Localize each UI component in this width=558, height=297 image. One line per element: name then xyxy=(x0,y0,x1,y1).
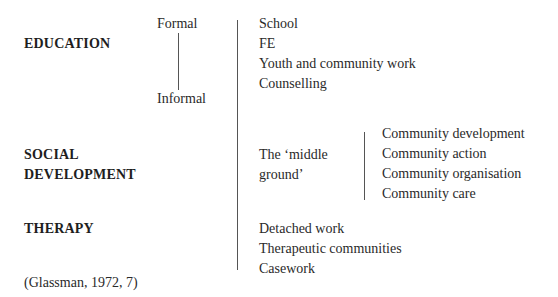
list-item: Community organisation xyxy=(382,164,525,184)
education-items-list: School FE Youth and community work Couns… xyxy=(259,14,416,94)
list-item: School xyxy=(259,14,416,34)
therapy-items-list: Detached work Therapeutic communities Ca… xyxy=(259,219,402,279)
middle-ground-label: The ‘middle ground’ xyxy=(259,145,328,185)
category-social-development-line1: SOCIAL xyxy=(24,145,79,165)
list-item: Therapeutic communities xyxy=(259,239,402,259)
list-item: Community development xyxy=(382,124,525,144)
category-social-development-line2: DEVELOPMENT xyxy=(24,165,136,185)
middle-ground-line2: ground’ xyxy=(259,165,328,185)
scale-formal-label: Formal xyxy=(157,14,197,34)
category-education: EDUCATION xyxy=(24,34,110,54)
list-item: Community action xyxy=(382,144,525,164)
main-divider xyxy=(237,20,238,270)
citation: (Glassman, 1972, 7) xyxy=(24,273,138,293)
list-item: FE xyxy=(259,34,416,54)
formal-informal-connector xyxy=(178,33,179,90)
community-items-list: Community development Community action C… xyxy=(382,124,525,204)
list-item: Youth and community work xyxy=(259,54,416,74)
category-therapy: THERAPY xyxy=(24,219,94,239)
middle-ground-divider xyxy=(364,132,365,200)
list-item: Detached work xyxy=(259,219,402,239)
list-item: Counselling xyxy=(259,74,416,94)
list-item: Community care xyxy=(382,184,525,204)
list-item: Casework xyxy=(259,259,402,279)
scale-informal-label: Informal xyxy=(157,89,206,109)
middle-ground-line1: The ‘middle xyxy=(259,145,328,165)
